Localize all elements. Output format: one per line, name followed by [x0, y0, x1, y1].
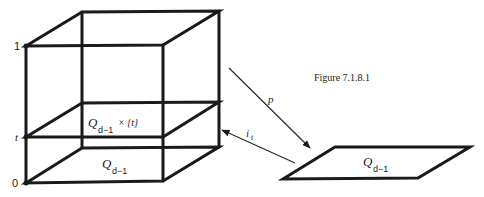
vertex-dot-0: [24, 181, 29, 186]
axis-label-t: t: [15, 131, 19, 143]
axis-label-0: 0: [12, 177, 18, 189]
cube-projection-diagram: 1 t 0 Q d−1 × {t} Q d−1 p i t Q d−1 Figu…: [0, 0, 484, 197]
base-label: Q d−1: [102, 156, 127, 176]
figure-caption: Figure 7.1.8.1: [314, 72, 370, 83]
slice-label-base: Q: [88, 115, 98, 130]
inclusion-label: i t: [246, 127, 254, 142]
inclusion-label-sub: t: [251, 133, 254, 142]
axis-label-1: 1: [14, 40, 20, 52]
slice-label-sub: d−1: [98, 125, 113, 135]
base-label-base: Q: [102, 156, 112, 171]
projection-arrow-p: [229, 68, 310, 148]
target-label: Q d−1: [363, 154, 388, 174]
target-label-sub: d−1: [373, 164, 388, 174]
cube-bottom-face: [26, 147, 219, 183]
slice-label: Q d−1 × {t}: [88, 115, 138, 135]
cube: [24, 11, 220, 186]
target-label-base: Q: [363, 154, 373, 169]
vertex-dot-1: [24, 44, 29, 49]
vertex-dot-t: [24, 135, 29, 140]
target-parallelogram: [283, 147, 470, 179]
inclusion-arrow-i-t: [222, 130, 295, 163]
projection-label-p: p: [267, 93, 274, 105]
cube-top-face: [26, 11, 219, 46]
slice-label-suffix: × {t}: [118, 117, 138, 128]
inclusion-label-base: i: [246, 127, 249, 139]
base-label-sub: d−1: [112, 166, 127, 176]
